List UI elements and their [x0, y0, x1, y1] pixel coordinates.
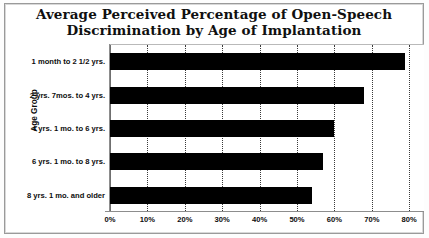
- x-axis-tick-label: 10%: [127, 215, 167, 224]
- bar: [110, 187, 312, 204]
- y-axis-category-label: 4 yrs. 1 mo. to 6 yrs.: [0, 124, 105, 133]
- x-axis-tick-label: 70%: [352, 215, 392, 224]
- x-axis-tick-label: 0%: [90, 215, 130, 224]
- plot-area: [110, 44, 424, 211]
- gridline-80%: [409, 45, 410, 211]
- x-axis-tick-label: 20%: [165, 215, 205, 224]
- bar: [110, 153, 323, 170]
- x-axis-tick-label: 40%: [240, 215, 280, 224]
- chart-title: Average Perceived Percentage of Open-Spe…: [10, 6, 418, 38]
- chart-title-line-1: Average Perceived Percentage of Open-Spe…: [10, 6, 418, 22]
- y-axis-title: Age Group: [30, 71, 39, 151]
- x-axis-tick-label: 50%: [277, 215, 317, 224]
- x-axis-tick-label: 30%: [202, 215, 242, 224]
- chart-title-line-2: Discrimination by Age of Implantation: [10, 22, 418, 38]
- chart-figure: Average Perceived Percentage of Open-Spe…: [0, 0, 429, 238]
- x-axis-tick-label: 60%: [314, 215, 354, 224]
- bar: [110, 87, 364, 104]
- x-axis-line: [105, 211, 424, 212]
- y-axis-category-label: 1 month to 2 1/2 yrs.: [0, 57, 105, 66]
- bar: [110, 53, 405, 70]
- x-axis-tick-label: 80%: [389, 215, 429, 224]
- y-axis-category-label: 2 yrs. 7mos. to 4 yrs.: [0, 91, 105, 100]
- bar: [110, 120, 334, 137]
- y-axis-category-label: 6 yrs. 1 mo. to 8 yrs.: [0, 157, 105, 166]
- y-axis-category-label: 8 yrs. 1 mo. and older: [0, 191, 105, 200]
